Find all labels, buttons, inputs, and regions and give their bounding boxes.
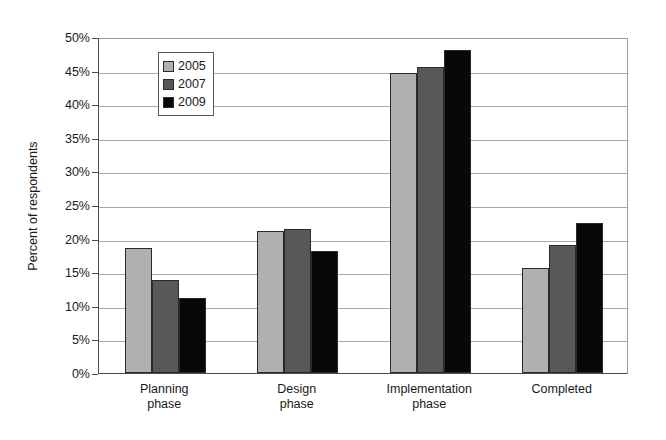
bar <box>125 248 152 373</box>
y-axis-tick-label: 5% <box>42 334 90 346</box>
bar <box>576 223 603 373</box>
legend-item: 2005 <box>163 57 208 75</box>
y-axis-tick-label: 40% <box>42 99 90 111</box>
bar <box>257 231 284 373</box>
bar-group <box>232 39 365 373</box>
legend-swatch-icon <box>163 79 174 90</box>
x-axis-category-label: Planningphase <box>98 382 231 412</box>
bar <box>179 298 206 373</box>
x-axis-category-label: Implementationphase <box>363 382 496 412</box>
y-axis-tick-label: 35% <box>42 133 90 145</box>
x-axis-category-label: Designphase <box>231 382 364 412</box>
bar-chart: Percent of respondents 0%5%10%15%20%25%3… <box>0 0 666 440</box>
legend-swatch-icon <box>163 97 174 108</box>
bar <box>390 73 417 373</box>
legend-item: 2007 <box>163 75 208 93</box>
bar <box>311 251 338 373</box>
legend-label: 2009 <box>178 96 206 109</box>
bar <box>152 280 179 373</box>
legend-label: 2005 <box>178 60 206 73</box>
y-axis-tick-label: 45% <box>42 66 90 78</box>
legend: 200520072009 <box>158 52 214 116</box>
bar <box>549 245 576 373</box>
y-axis-tick-label: 50% <box>42 32 90 44</box>
bar-group <box>497 39 630 373</box>
bar <box>417 67 444 373</box>
y-axis-tick-label: 20% <box>42 234 90 246</box>
y-axis-tick-labels: 0%5%10%15%20%25%30%35%40%45%50% <box>36 0 90 440</box>
y-axis-tick-label: 30% <box>42 166 90 178</box>
y-axis-tick-label: 15% <box>42 267 90 279</box>
legend-swatch-icon <box>163 61 174 72</box>
bar <box>522 268 549 373</box>
y-axis-tick-label: 25% <box>42 200 90 212</box>
bar <box>444 50 471 373</box>
legend-label: 2007 <box>178 78 206 91</box>
y-axis-tick-mark <box>92 374 98 375</box>
bar <box>284 229 311 373</box>
legend-item: 2009 <box>163 93 208 111</box>
y-axis-tick-label: 0% <box>42 368 90 380</box>
bar-group <box>364 39 497 373</box>
x-axis-category-label: Completed <box>496 382 629 397</box>
y-axis-tick-label: 10% <box>42 301 90 313</box>
